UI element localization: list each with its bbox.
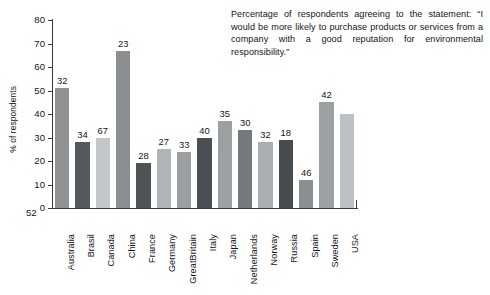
bar-value-label: 67: [98, 125, 108, 136]
figure: Percentage of respondents agreeing to th…: [0, 0, 490, 295]
y-axis-tick-label: 70: [5, 38, 45, 49]
bar-value-label: 27: [159, 136, 169, 147]
x-axis-label-usa: USA: [350, 234, 360, 253]
bar-value-label: 18: [281, 127, 291, 138]
y-axis-tick: [48, 67, 53, 68]
bar-value-label: 32: [57, 75, 67, 86]
bar-greatbritain[interactable]: [177, 152, 191, 208]
bar-value-label: 46: [301, 167, 311, 178]
bar-value-label: 23: [118, 38, 128, 49]
bar-value-label: 32: [260, 129, 270, 140]
x-axis-line: [52, 208, 358, 209]
bar-australia[interactable]: [55, 88, 69, 208]
y-axis-tick: [48, 20, 53, 21]
y-axis-tick: [48, 208, 53, 209]
y-axis-tick: [48, 114, 53, 115]
bar-russia[interactable]: [279, 140, 293, 208]
bar-value-label: 30: [240, 117, 250, 128]
bar-usa[interactable]: [340, 114, 354, 208]
bar-spain[interactable]: [299, 180, 313, 208]
y-axis-tick-label: 20: [5, 155, 45, 166]
bar-germany[interactable]: [157, 149, 171, 208]
bar-italy[interactable]: [197, 138, 211, 209]
x-axis-label-russia: Russia: [289, 234, 299, 262]
x-axis-label-china: China: [127, 234, 137, 258]
y-axis-tick-label: 40: [5, 108, 45, 119]
y-axis-tick-label: 50: [5, 85, 45, 96]
x-axis-label-spain: Spain: [310, 234, 320, 258]
x-axis-label-netherlands: Netherlands: [249, 234, 259, 284]
plot-area: 0102030405060708032Australia34Brasil67Ca…: [52, 20, 357, 208]
x-axis-label-france: France: [147, 234, 157, 263]
bar-china[interactable]: [116, 51, 130, 208]
y-axis-tick-label: 10: [5, 179, 45, 190]
x-axis-label-australia: Australia: [66, 234, 76, 270]
x-axis-label-italy: Italy: [208, 234, 218, 251]
x-axis-label-canada: Canada: [106, 234, 116, 266]
y-axis-tick: [48, 161, 53, 162]
x-axis-label-sweden: Sweden: [330, 234, 340, 267]
bar-value-label: 42: [321, 89, 331, 100]
y-axis-tick: [48, 44, 53, 45]
y-axis-title: % of respondents: [8, 86, 18, 153]
x-axis-label-greatbritain: GreatBritain: [188, 234, 198, 284]
bar-norway[interactable]: [258, 142, 272, 208]
bar-japan[interactable]: [218, 121, 232, 208]
bar-value-label: 33: [179, 139, 189, 150]
x-axis-label-germany: Germany: [167, 234, 177, 272]
y-axis-tick: [48, 138, 53, 139]
y-axis-tick-label: 60: [5, 61, 45, 72]
x-axis-label-norway: Norway: [269, 234, 279, 265]
bar-value-label: 40: [199, 125, 209, 136]
bar-france[interactable]: [136, 163, 150, 208]
bar-netherlands[interactable]: [238, 130, 252, 208]
bar-value-label: 35: [220, 108, 230, 119]
bar-value-label: 34: [77, 129, 87, 140]
bar-value-label: 28: [138, 150, 148, 161]
x-axis-label-brasil: Brasil: [86, 234, 96, 257]
y-axis-tick-label: 80: [5, 14, 45, 25]
y-axis-tick-label: 0: [5, 202, 45, 213]
y-axis-tick: [48, 185, 53, 186]
y-axis-tick: [48, 91, 53, 92]
y-axis-tick-label: 30: [5, 132, 45, 143]
bar-sweden[interactable]: [319, 102, 333, 208]
bar-canada[interactable]: [96, 138, 110, 209]
bar-brasil[interactable]: [75, 142, 89, 208]
x-axis-label-japan: Japan: [228, 234, 238, 259]
